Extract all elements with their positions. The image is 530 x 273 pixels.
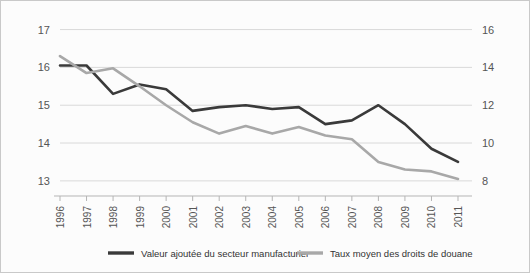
x-tick-label-2008: 2008 xyxy=(373,206,384,229)
x-tick-label-2005: 2005 xyxy=(294,206,305,229)
left-axis-tick-17: 17 xyxy=(38,24,50,36)
left-axis-tick-14: 14 xyxy=(38,137,50,149)
right-axis-tick-14: 14 xyxy=(482,61,494,73)
left-axis-tick-15: 15 xyxy=(38,99,50,111)
right-axis-tick-12: 12 xyxy=(482,99,494,111)
x-tick-label-2002: 2002 xyxy=(214,206,225,229)
x-tick-label-2004: 2004 xyxy=(267,206,278,229)
x-tick-label-2007: 2007 xyxy=(347,206,358,229)
chart-page: 1314151617810121416199619971998199920002… xyxy=(0,0,530,273)
x-tick-label-2006: 2006 xyxy=(320,206,331,229)
chart-plot-area: 1314151617810121416199619971998199920002… xyxy=(0,0,530,273)
x-tick-label-2009: 2009 xyxy=(400,206,411,229)
x-tick-label-1997: 1997 xyxy=(82,206,93,229)
legend-label-0: Valeur ajoutée du secteur manufacturier xyxy=(141,248,309,259)
right-axis-tick-10: 10 xyxy=(482,137,494,149)
x-tick-label-1996: 1996 xyxy=(55,206,66,229)
right-axis-tick-8: 8 xyxy=(482,175,488,187)
right-axis-tick-16: 16 xyxy=(482,24,494,36)
x-tick-label-1999: 1999 xyxy=(135,206,146,229)
x-tick-label-2011: 2011 xyxy=(453,206,464,228)
x-tick-label-2001: 2001 xyxy=(188,206,199,229)
line-chart: 1314151617810121416199619971998199920002… xyxy=(0,0,530,273)
left-axis-tick-16: 16 xyxy=(38,61,50,73)
x-tick-label-2010: 2010 xyxy=(426,206,437,229)
x-tick-label-1998: 1998 xyxy=(108,206,119,229)
x-tick-label-2000: 2000 xyxy=(161,206,172,229)
series-line-1 xyxy=(60,56,458,179)
legend-label-1: Taux moyen des droits de douane xyxy=(330,248,473,259)
series-line-0 xyxy=(60,66,458,162)
left-axis-tick-13: 13 xyxy=(38,175,50,187)
x-tick-label-2003: 2003 xyxy=(241,206,252,229)
